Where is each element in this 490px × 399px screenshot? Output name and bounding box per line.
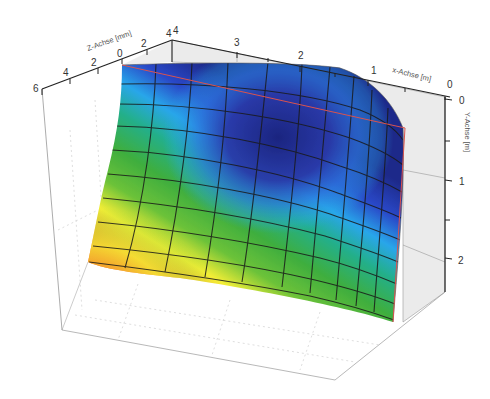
z-axis-label: Z-Achse [mm]	[86, 28, 133, 52]
y-tick-0: 0	[459, 95, 465, 106]
y-tick-2: 2	[458, 255, 464, 266]
z-tick-2b: 2	[141, 38, 147, 49]
y-axis-label: Y-Achse [m]	[463, 112, 472, 152]
x-axis-label: x-Achse [m]	[392, 65, 433, 83]
z-tick-6: 6	[33, 83, 39, 94]
z-tick-0: 0	[117, 48, 123, 59]
y-axis: 0 1 2 Y-Achse [m]	[445, 95, 472, 292]
z-tick-4: 4	[63, 67, 69, 78]
surface-plot-3d: 6 4 2 0 2 4 Z-Achse [mm] 4 3 2 1 0 x-Ach…	[0, 0, 490, 399]
x-tick-3: 3	[234, 37, 240, 48]
x-tick-0: 0	[447, 79, 453, 90]
z-tick-4b: 4	[166, 28, 172, 39]
y-tick-1: 1	[459, 176, 465, 187]
x-tick-1: 1	[371, 65, 377, 76]
x-tick-2: 2	[298, 50, 304, 61]
x-tick-4: 4	[173, 25, 179, 36]
surface	[80, 55, 410, 330]
z-tick-2: 2	[91, 57, 97, 68]
